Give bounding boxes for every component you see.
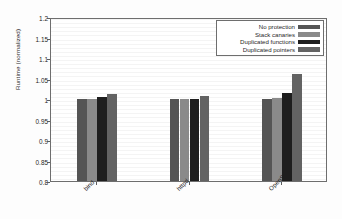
grid-line-minor: [51, 72, 326, 73]
grid-line-minor: [51, 81, 326, 82]
bar: [87, 99, 97, 181]
legend-color-swatch: [298, 32, 320, 37]
legend-color-swatch: [298, 40, 320, 45]
legend-item: Stack canaries: [219, 31, 320, 39]
bar: [77, 99, 87, 181]
y-axis-tick-label: 1.1: [8, 56, 48, 63]
grid-line-minor: [51, 64, 326, 65]
bar: [107, 94, 117, 181]
bar: [272, 98, 282, 181]
legend-color-swatch: [298, 25, 320, 30]
y-axis-tick-label: 0.9: [8, 138, 48, 145]
legend-item: No protection: [219, 23, 320, 31]
grid-line-minor: [51, 89, 326, 90]
grid-line-minor: [51, 76, 326, 77]
x-axis-tick-mark: [96, 182, 97, 185]
bar: [180, 99, 190, 181]
y-axis-tick-label: 1.05: [8, 76, 48, 83]
bar: [170, 99, 180, 181]
bar: [292, 74, 302, 181]
bar-chart: Runtime (normalized) 0.80.850.90.9511.05…: [0, 0, 342, 219]
y-axis-tick-label: 0.85: [8, 158, 48, 165]
legend-item: Duplicated functions: [219, 38, 320, 46]
y-axis-tick-mark: [47, 182, 50, 183]
legend: No protectionStack canariesDuplicated fu…: [216, 20, 324, 56]
legend-color-swatch: [298, 47, 320, 52]
grid-line-minor: [51, 68, 326, 69]
legend-item-label: Stack canaries: [255, 31, 295, 38]
bar: [200, 96, 210, 181]
legend-item-label: No protection: [259, 23, 295, 30]
y-axis-tick-label: 1.2: [8, 15, 48, 22]
bar: [97, 97, 107, 181]
y-axis-tick-label: 1: [8, 97, 48, 104]
y-axis-tick-label: 1.15: [8, 35, 48, 42]
legend-item-label: Duplicated pointers: [243, 46, 295, 53]
y-axis-tick-label: 0.95: [8, 117, 48, 124]
legend-item: Duplicated pointers: [219, 46, 320, 54]
grid-line-minor: [51, 85, 326, 86]
grid-line-minor: [51, 60, 326, 61]
bar: [190, 99, 200, 181]
y-axis-tick-label: 0.8: [8, 179, 48, 186]
legend-item-label: Duplicated functions: [240, 38, 295, 45]
bar: [262, 99, 272, 181]
